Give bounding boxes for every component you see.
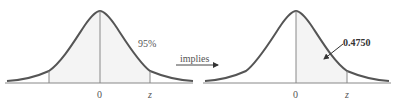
left-percent-label: 95%: [138, 38, 156, 49]
implies-connector: implies: [176, 53, 218, 65]
implies-label: implies: [180, 53, 210, 64]
left-tick-z: z: [147, 89, 152, 100]
left-bell-curve-panel: 95% 0 z: [5, 11, 193, 100]
right-bell-curve-panel: 0.4750 0 z: [203, 11, 391, 100]
right-tick-z: z: [344, 89, 349, 100]
normal-distribution-diagram: 95% 0 z implies 0.4750 0 z: [0, 0, 398, 112]
right-tick-zero: 0: [293, 89, 298, 100]
left-tick-zero: 0: [97, 89, 102, 100]
right-area-label: 0.4750: [343, 37, 371, 48]
